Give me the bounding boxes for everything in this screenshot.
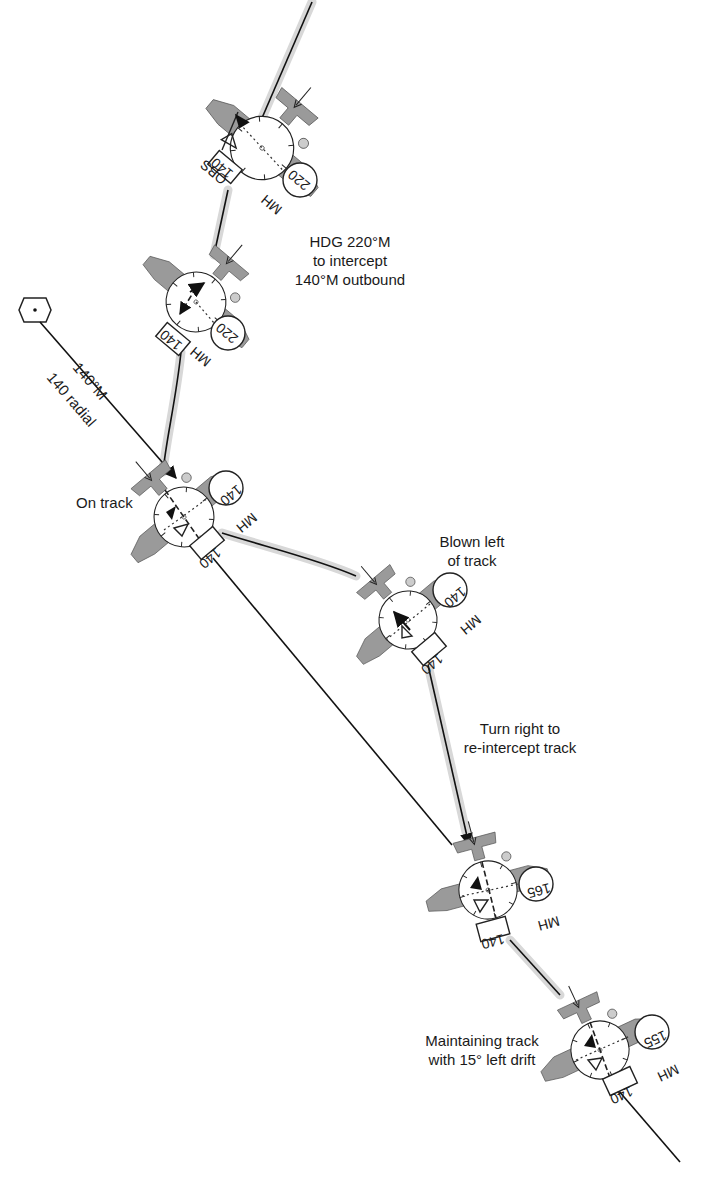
- intercept-label-line1: HDG 220°M: [309, 233, 390, 250]
- vor-tracking-diagram: 140°M 140 radial 140 OBS 220 MH 140 220 …: [0, 0, 714, 1179]
- mh-label: MH: [655, 1061, 682, 1085]
- blown-left-label-line1: Blown left: [439, 533, 505, 550]
- track-lines: [163, 2, 680, 1162]
- vor-station: 140°M 140 radial: [19, 298, 176, 478]
- turn-right-label-line1: Turn right to: [480, 720, 560, 737]
- aircraft-2: [127, 204, 292, 366]
- mh-label: MH: [457, 612, 484, 638]
- maintaining-label-line1: Maintaining track: [425, 1032, 539, 1049]
- maintaining-label-line2: with 15° left drift: [428, 1051, 537, 1068]
- turn-right-label-line2: re-intercept track: [464, 739, 577, 756]
- intercept-label-line2: to intercept: [313, 252, 388, 269]
- mh-label: MH: [258, 192, 285, 218]
- mh-label: MH: [233, 510, 260, 536]
- blown-left-label-line2: of track: [447, 552, 497, 569]
- on-track-label: On track: [76, 494, 133, 511]
- aircraft-1: [189, 44, 364, 216]
- intercept-label-line3: 140°M outbound: [295, 271, 405, 288]
- mh-label: MH: [536, 913, 561, 934]
- mh-label: MH: [187, 344, 214, 370]
